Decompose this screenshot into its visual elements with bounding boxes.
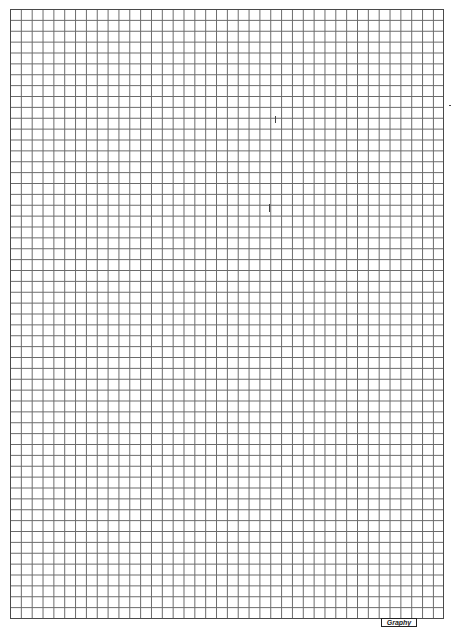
scan-mark xyxy=(449,105,451,106)
scan-mark xyxy=(269,204,270,212)
graph-paper-grid xyxy=(10,9,444,619)
brand-logo-text: Graphy xyxy=(387,619,412,626)
scan-mark xyxy=(275,116,276,123)
brand-logo: Graphy xyxy=(381,618,417,627)
